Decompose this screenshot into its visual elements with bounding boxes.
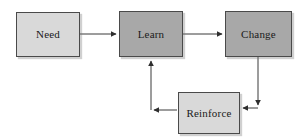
- flowchart-diagram: Need Learn Change Reinforce: [0, 0, 303, 139]
- edge-change-to-reinforce: [243, 57, 258, 108]
- node-change-label: Change: [241, 29, 276, 40]
- node-need-label: Need: [36, 29, 60, 40]
- node-reinforce-label: Reinforce: [186, 108, 231, 119]
- edge-reinforce-to-learn: [151, 61, 177, 110]
- node-learn-label: Learn: [138, 29, 165, 40]
- node-reinforce[interactable]: Reinforce: [178, 92, 240, 134]
- node-learn[interactable]: Learn: [119, 11, 183, 57]
- node-need[interactable]: Need: [16, 12, 80, 57]
- node-change[interactable]: Change: [225, 11, 292, 57]
